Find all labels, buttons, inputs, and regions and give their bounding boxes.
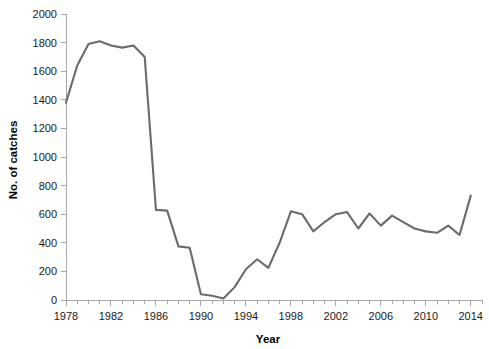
y-tick-label: 200 [39, 265, 57, 277]
catches-line-chart: 0200400600800100012001400160018002000 19… [0, 0, 489, 349]
y-tick-label: 1000 [33, 151, 57, 163]
y-tick-label: 1200 [33, 122, 57, 134]
x-tick-label: 2002 [324, 310, 348, 322]
x-tick-label: 1990 [189, 310, 213, 322]
x-tick-label: 1978 [54, 310, 78, 322]
y-tick-label: 600 [39, 208, 57, 220]
chart-canvas: 0200400600800100012001400160018002000 19… [0, 0, 489, 349]
y-axis-title: No. of catches [7, 121, 19, 200]
x-tick-label: 1982 [99, 310, 123, 322]
catches-series-line [66, 41, 471, 298]
x-tick-label: 1998 [279, 310, 303, 322]
x-tick-label: 1994 [234, 310, 258, 322]
y-axis-tick-marks [61, 14, 66, 300]
x-tick-label: 2010 [414, 310, 438, 322]
y-tick-label: 400 [39, 237, 57, 249]
y-axis [61, 14, 66, 300]
y-tick-label: 2000 [33, 8, 57, 20]
y-tick-label: 0 [51, 294, 57, 306]
x-tick-label: 2014 [459, 310, 483, 322]
x-tick-label: 2006 [369, 310, 393, 322]
x-axis [66, 300, 482, 306]
y-tick-label: 1400 [33, 94, 57, 106]
x-axis-title: Year [256, 333, 281, 345]
x-axis-tick-marks [66, 300, 482, 306]
y-tick-label: 1600 [33, 65, 57, 77]
y-tick-label: 800 [39, 180, 57, 192]
x-tick-label: 1986 [144, 310, 168, 322]
x-axis-tick-labels: 1978198219861990199419982002200620102014 [54, 310, 483, 322]
y-axis-tick-labels: 0200400600800100012001400160018002000 [33, 8, 57, 306]
y-tick-label: 1800 [33, 37, 57, 49]
